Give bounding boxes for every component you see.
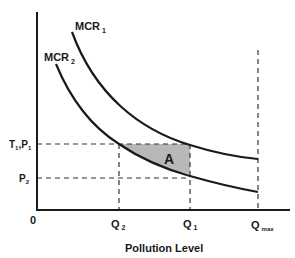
- x-axis-title: Pollution Level: [125, 242, 203, 254]
- shaded-area-a: [119, 144, 190, 174]
- mcr1-label: MCR1: [75, 20, 106, 34]
- q2-label: Q2: [111, 218, 126, 231]
- t1p1-label: T1,P1: [9, 139, 32, 151]
- q1-label: Q1: [183, 218, 198, 231]
- origin-label: 0: [30, 214, 36, 226]
- mcr2-curve: [56, 64, 258, 192]
- mcr1-curve: [72, 32, 258, 159]
- area-a-label: A: [164, 151, 174, 167]
- diagram-canvas: MCR1 MCR2 T1,P1 P2 0 Q2 Q1 Qmax A Pollut…: [0, 0, 295, 258]
- p2-label: P2: [19, 173, 30, 185]
- mcr2-label: MCR2: [44, 51, 75, 65]
- qmax-label: Qmax: [251, 219, 274, 232]
